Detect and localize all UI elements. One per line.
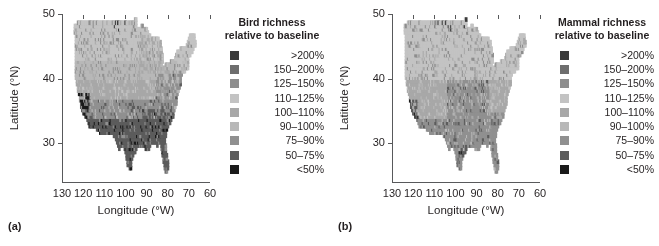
legend-row-a-7: 50–75% [218,148,326,162]
legend-label-a-4: 100–110% [239,107,326,118]
y-tick-a-40 [58,79,62,80]
legend-swatch-a-3 [230,94,239,103]
legend-row-b-0: >200% [548,48,656,62]
x-tick-a-130 [62,15,63,19]
legend-row-a-8: <50% [218,162,326,176]
legend-label-b-4: 100–110% [569,107,656,118]
legend-swatch-b-0 [560,51,569,60]
x-tick-a-80 [168,15,169,19]
legend-label-b-8: <50% [569,164,656,175]
legend-swatch-b-5 [560,122,569,131]
x-tick-label-b-120: 120 [404,188,422,199]
legend-title-line2-a: relative to baseline [218,29,326,42]
figure-richness-maps: 50403013012011010090807060 Latitude (°N)… [0,0,659,246]
y-axis-line-a [62,14,63,182]
x-tick-a-90 [147,15,148,19]
legend-row-b-8: <50% [548,162,656,176]
x-tick-label-b-80: 80 [492,188,504,199]
x-tick-label-b-130: 130 [383,188,401,199]
legend-swatch-a-0 [230,51,239,60]
x-axis-title-a: Longitude (°W) [98,204,175,216]
legend-row-a-4: 100–110% [218,105,326,119]
x-tick-a-60 [210,15,211,19]
legend-label-b-7: 50–75% [569,150,656,161]
x-tick-a-70 [189,15,190,19]
x-tick-label-b-90: 90 [470,188,482,199]
legend-label-a-7: 50–75% [239,150,326,161]
x-tick-b-90 [477,15,478,19]
x-tick-a-100 [125,15,126,19]
legend-row-b-4: 100–110% [548,105,656,119]
x-axis-title-b: Longitude (°W) [428,204,505,216]
x-tick-b-120 [413,15,414,19]
legend-title-line2-b: relative to baseline [548,29,656,42]
x-tick-label-a-90: 90 [140,188,152,199]
legend-label-b-2: 125–150% [569,78,656,89]
x-tick-a-110 [104,15,105,19]
x-tick-label-b-70: 70 [513,188,525,199]
y-tick-label-b-30: 30 [373,137,385,148]
x-tick-label-a-80: 80 [162,188,174,199]
panel-b-mammal-richness: 50403013012011010090807060 Latitude (°N)… [330,0,659,246]
x-tick-label-b-100: 100 [446,188,464,199]
legend-row-b-1: 150–200% [548,62,656,76]
legend-label-a-6: 75–90% [239,135,326,146]
legend-title-line1-b: Mammal richness [548,16,656,29]
x-tick-label-a-100: 100 [116,188,134,199]
y-tick-b-40 [388,79,392,80]
y-axis-title-b: Latitude (°N) [338,66,350,131]
map-canvas-mammal [392,14,540,182]
y-tick-label-b-50: 50 [373,8,385,19]
legend-label-a-2: 125–150% [239,78,326,89]
legend-row-a-0: >200% [218,48,326,62]
legend-label-a-8: <50% [239,164,326,175]
legend-label-b-5: 90–100% [569,121,656,132]
x-tick-b-60 [540,15,541,19]
legend-row-b-2: 125–150% [548,77,656,91]
legend-row-a-3: 110–125% [218,91,326,105]
legend-label-b-3: 110–125% [569,93,656,104]
legend-label-a-5: 90–100% [239,121,326,132]
x-axis-line-b [392,182,540,183]
legend-label-b-1: 150–200% [569,64,656,75]
x-tick-label-a-60: 60 [204,188,216,199]
legend-swatch-b-7 [560,151,569,160]
legend-swatch-a-7 [230,151,239,160]
legend-row-b-6: 75–90% [548,134,656,148]
legend-swatch-a-4 [230,108,239,117]
y-tick-label-a-40: 40 [43,73,55,84]
legend-a: Bird richness relative to baseline >200%… [218,16,326,177]
legend-row-a-2: 125–150% [218,77,326,91]
x-tick-b-70 [519,15,520,19]
y-axis-title-a: Latitude (°N) [8,66,20,131]
x-tick-b-80 [498,15,499,19]
legend-swatch-b-3 [560,94,569,103]
x-tick-b-110 [434,15,435,19]
legend-title-a: Bird richness relative to baseline [218,16,326,41]
legend-swatch-a-8 [230,165,239,174]
x-axis-line-a [62,182,210,183]
legend-swatch-a-5 [230,122,239,131]
x-tick-label-a-70: 70 [183,188,195,199]
legend-row-b-5: 90–100% [548,119,656,133]
x-tick-label-a-110: 110 [96,188,114,199]
legend-swatch-a-6 [230,136,239,145]
legend-title-line1-a: Bird richness [218,16,326,29]
legend-swatch-b-1 [560,65,569,74]
x-tick-b-130 [392,15,393,19]
legend-label-a-0: >200% [239,50,326,61]
legend-b: Mammal richness relative to baseline >20… [548,16,656,177]
legend-swatch-a-1 [230,65,239,74]
legend-swatch-b-8 [560,165,569,174]
map-canvas-bird [62,14,210,182]
y-tick-label-b-40: 40 [373,73,385,84]
y-tick-label-a-30: 30 [43,137,55,148]
plot-area-a: 50403013012011010090807060 [62,14,210,182]
x-tick-label-b-110: 110 [426,188,444,199]
plot-area-b: 50403013012011010090807060 [392,14,540,182]
legend-title-b: Mammal richness relative to baseline [548,16,656,41]
legend-row-a-1: 150–200% [218,62,326,76]
panel-label-a: (a) [8,220,21,232]
legend-swatch-b-2 [560,79,569,88]
legend-swatch-a-2 [230,79,239,88]
